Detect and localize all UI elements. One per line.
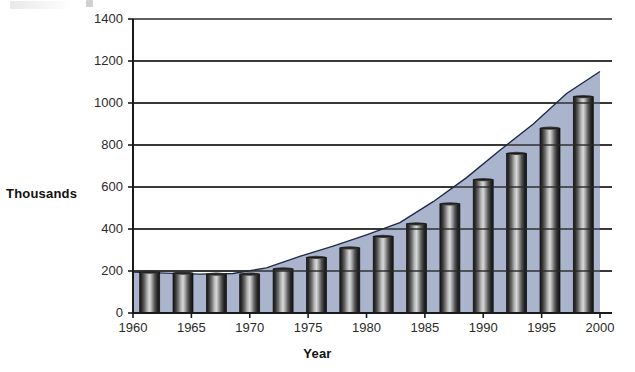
bar [540, 127, 560, 313]
chart-container: Thousands Year 0200400600800100012001400… [0, 0, 635, 372]
bar [440, 202, 460, 313]
bar [240, 273, 260, 314]
bar [273, 267, 293, 313]
bar [573, 95, 593, 313]
bar [206, 273, 226, 314]
bar [373, 235, 393, 313]
bar [473, 178, 493, 313]
bar [140, 271, 160, 314]
bar [307, 256, 327, 313]
bar [173, 272, 193, 314]
bar [407, 222, 427, 313]
chart-plot-area [0, 0, 635, 372]
bar [340, 246, 360, 313]
area-fill [133, 72, 600, 314]
bar [507, 152, 527, 313]
